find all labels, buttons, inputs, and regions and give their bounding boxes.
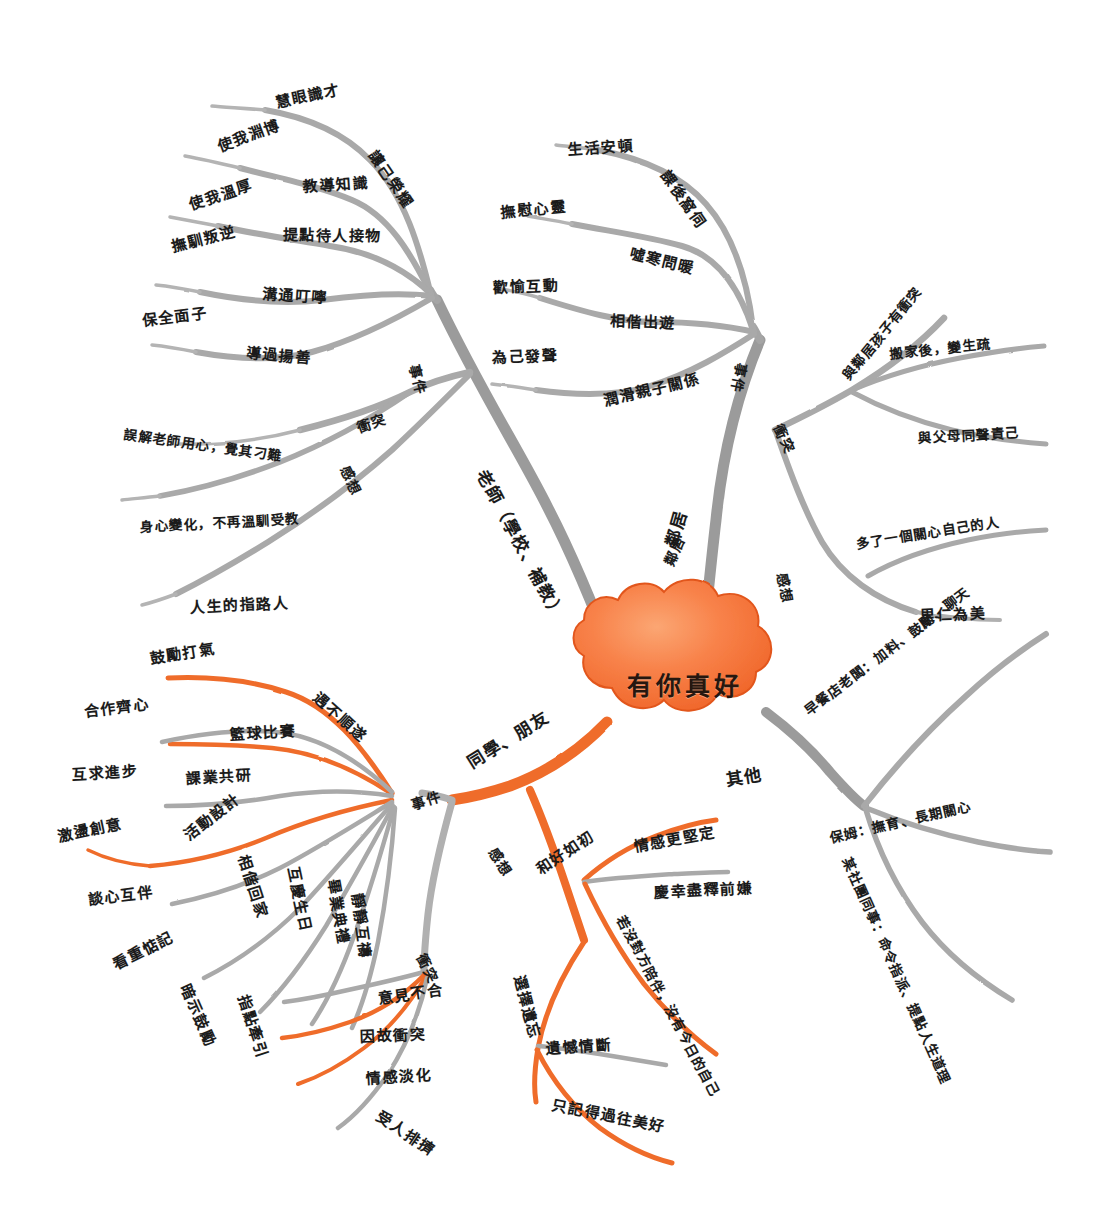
- leaf-n7[interactable]: 為己發聲: [492, 349, 558, 366]
- leaf-n6[interactable]: 相偕出遊: [610, 314, 676, 331]
- mindmap-canvas: 有你真好 老師（學校、補教） 鄰居 其他 同學、朋友 事件 衝突 感想 慧眼識才…: [0, 0, 1093, 1212]
- leaf-c6[interactable]: 課業共研: [186, 769, 253, 787]
- leaf-n1[interactable]: 生活安頓: [567, 138, 634, 158]
- leaf-cc3[interactable]: 情感淡化: [366, 1069, 433, 1087]
- leaf-cf6[interactable]: 遺憾情斷: [545, 1037, 612, 1057]
- leaf-t4[interactable]: 教導知識: [302, 175, 369, 195]
- leaf-cc2[interactable]: 因故衝突: [360, 1028, 426, 1045]
- leaf-c5[interactable]: 互求進步: [72, 765, 139, 783]
- leaf-n5[interactable]: 歡愉互動: [493, 279, 559, 296]
- leaf-c4[interactable]: 籃球比賽: [230, 725, 297, 743]
- leaf-t8[interactable]: 溝通叮嚀: [261, 287, 328, 307]
- leaf-t6[interactable]: 提點待人接物: [283, 228, 382, 245]
- center-label: 有你真好: [597, 628, 773, 740]
- center-node[interactable]: 有你真好: [597, 628, 773, 740]
